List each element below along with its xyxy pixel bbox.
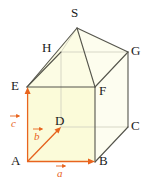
vector-label-b: b (34, 131, 40, 142)
vertex-label-S: S (71, 6, 78, 19)
vertex-label-B: B (99, 154, 108, 167)
vector-label-c: c (11, 118, 16, 129)
vertex-label-H: H (42, 41, 51, 54)
vertex-label-A: A (11, 154, 20, 167)
vertex-label-F: F (99, 84, 106, 97)
tick-c-head (17, 115, 20, 118)
vertex-label-D: D (55, 114, 64, 127)
vector-label-a: a (57, 168, 63, 179)
vertex-label-G: G (131, 44, 140, 57)
vertex-label-C: C (131, 119, 140, 132)
solid-geometry-figure (0, 0, 151, 187)
vertex-label-E: E (11, 79, 19, 92)
